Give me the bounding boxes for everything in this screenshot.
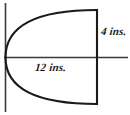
length-dimension-label: 12 ins. [34,62,67,73]
height-dimension-label: 4 ins. [100,26,127,37]
figure-drawing [0,0,130,115]
parabola-upper-arc [6,10,98,58]
parabolic-segment-figure: 4 ins. 12 ins. [0,0,130,115]
